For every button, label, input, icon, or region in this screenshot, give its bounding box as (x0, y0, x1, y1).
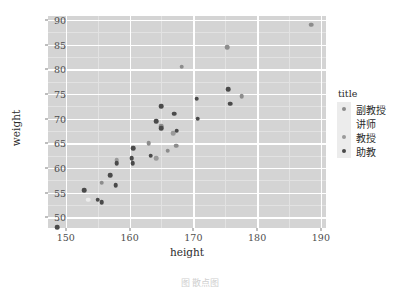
grid-major-horizontal (48, 143, 326, 144)
data-point-副教授 (240, 94, 245, 99)
x-axis-tick-label: 170 (184, 232, 202, 243)
plot-panel (48, 16, 326, 228)
y-axis-tick-label: 60 (54, 162, 66, 173)
data-point-助教 (148, 153, 153, 158)
x-axis-tick-mark (257, 228, 258, 231)
data-point-助教 (55, 225, 60, 230)
y-axis-tick-mark (45, 167, 48, 168)
y-axis-tick-label: 90 (54, 14, 66, 25)
x-axis-tick-mark (129, 228, 130, 231)
y-axis-tick-mark (45, 93, 48, 94)
grid-minor-horizontal (48, 131, 326, 132)
data-point-助教 (82, 188, 87, 193)
legend-entry-教授[interactable]: 教授 (337, 130, 399, 144)
grid-major-horizontal (48, 94, 326, 95)
grid-minor-horizontal (48, 32, 326, 33)
x-axis-tick-label: 190 (312, 232, 330, 243)
data-point-助教 (108, 173, 113, 178)
legend-entry-label: 讲师 (356, 116, 376, 131)
data-point-助教 (131, 146, 136, 151)
grid-major-vertical (257, 16, 258, 228)
grid-major-vertical (321, 16, 322, 228)
grid-minor-vertical (161, 16, 162, 228)
grid-major-horizontal (48, 20, 326, 21)
legend: title 副教授讲师教授助教 (337, 88, 399, 158)
x-axis-tick-mark (65, 228, 66, 231)
data-point-助教 (115, 161, 120, 166)
legend-entry-副教授[interactable]: 副教授 (337, 102, 399, 116)
grid-minor-horizontal (48, 180, 326, 181)
y-axis-tick-label: 50 (54, 212, 66, 223)
x-axis-tick-mark (320, 228, 321, 231)
grid-major-horizontal (48, 45, 326, 46)
data-point-副教授 (309, 23, 314, 28)
y-axis-tick-mark (45, 143, 48, 144)
data-point-助教 (131, 161, 136, 166)
data-point-副教授 (166, 148, 171, 153)
grid-minor-vertical (98, 16, 99, 228)
y-axis-title: weight (10, 68, 22, 188)
data-point-助教 (194, 97, 199, 102)
data-point-助教 (129, 156, 134, 161)
data-point-助教 (226, 87, 231, 92)
data-point-助教 (159, 104, 164, 109)
data-point-教授 (154, 156, 159, 161)
legend-marker-icon (342, 149, 346, 153)
legend-key-swatch (337, 116, 351, 130)
data-point-副教授 (180, 64, 185, 69)
y-axis-tick-mark (45, 44, 48, 45)
data-point-副教授 (174, 143, 179, 148)
legend-marker-icon (342, 135, 346, 139)
x-axis-tick-mark (193, 228, 194, 231)
data-point-助教 (196, 116, 201, 121)
grid-minor-horizontal (48, 82, 326, 83)
legend-marker-icon (342, 121, 346, 125)
legend-key-swatch (337, 102, 351, 116)
data-point-副教授 (225, 45, 230, 50)
y-axis-tick-label: 75 (54, 88, 66, 99)
y-axis-tick-label: 65 (54, 138, 66, 149)
y-axis-tick-mark (45, 69, 48, 70)
data-point-副教授 (99, 180, 104, 185)
legend-title: title (338, 88, 399, 99)
grid-minor-horizontal (48, 156, 326, 157)
legend-marker-icon (342, 107, 346, 111)
y-axis-tick-mark (45, 192, 48, 193)
x-axis-tick-label: 160 (121, 232, 139, 243)
data-point-助教 (172, 111, 177, 116)
data-point-助教 (99, 200, 104, 205)
grid-major-horizontal (48, 217, 326, 218)
grid-minor-horizontal (48, 205, 326, 206)
legend-entry-label: 副教授 (356, 102, 386, 117)
grid-minor-horizontal (48, 57, 326, 58)
legend-entries: 副教授讲师教授助教 (337, 102, 399, 158)
legend-entry-label: 助教 (356, 144, 376, 159)
legend-key-swatch (337, 130, 351, 144)
data-point-助教 (159, 126, 164, 131)
data-point-副教授 (146, 141, 151, 146)
grid-major-horizontal (48, 193, 326, 194)
figure-caption: 图 散点图 (0, 276, 400, 288)
y-axis-tick-label: 55 (54, 187, 66, 198)
y-axis-tick-mark (45, 118, 48, 119)
y-axis-tick-label: 85 (54, 39, 66, 50)
legend-entry-label: 教授 (356, 130, 376, 145)
data-point-讲师 (86, 198, 91, 203)
y-axis-tick-mark (45, 19, 48, 20)
data-point-助教 (175, 129, 180, 134)
grid-major-horizontal (48, 69, 326, 70)
y-axis-tick-mark (45, 217, 48, 218)
y-axis-tick-label: 80 (54, 64, 66, 75)
data-point-助教 (113, 183, 118, 188)
x-axis-tick-label: 180 (248, 232, 266, 243)
x-axis-title: height (0, 246, 374, 258)
data-point-助教 (154, 119, 159, 124)
legend-entry-助教[interactable]: 助教 (337, 144, 399, 158)
grid-major-vertical (66, 16, 67, 228)
x-axis-tick-label: 150 (57, 232, 75, 243)
data-point-助教 (228, 101, 233, 106)
grid-minor-horizontal (48, 106, 326, 107)
grid-major-vertical (130, 16, 131, 228)
scatter-plot-figure: 505560657075808590150160170180190 weight… (0, 0, 400, 288)
legend-entry-讲师[interactable]: 讲师 (337, 116, 399, 130)
